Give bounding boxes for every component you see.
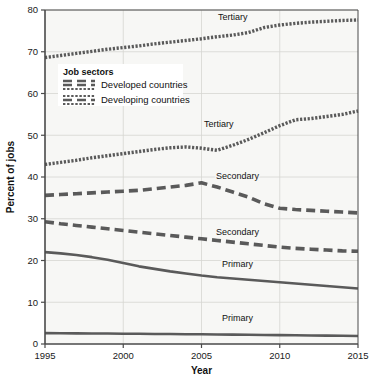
y-tick-label: 40	[27, 171, 38, 182]
x-tick-label: 1995	[34, 350, 55, 361]
x-tick-label: 2010	[269, 350, 290, 361]
x-tick-label: 2015	[347, 350, 368, 361]
x-tick-label: 2005	[191, 350, 212, 361]
line-chart: TertiaryTertiarySecondarySecondaryPrimar…	[0, 0, 369, 379]
y-tick-label: 70	[27, 46, 38, 57]
series-label-primary: Primary	[222, 313, 253, 323]
x-axis-title: Year	[191, 365, 212, 376]
y-tick-label: 60	[27, 88, 38, 99]
series-label-tertiary: Tertiary	[204, 119, 234, 129]
legend: Job sectorsDeveloped countriesDeveloping…	[58, 64, 190, 106]
y-tick-label: 20	[27, 255, 38, 266]
series-label-secondary: Secondary	[216, 171, 260, 181]
y-axis-title: Percent of jobs	[5, 140, 16, 213]
legend-label-developed-countries: Developed countries	[101, 79, 188, 90]
chart-container: TertiaryTertiarySecondarySecondaryPrimar…	[0, 0, 369, 379]
x-tick-label: 2000	[113, 350, 134, 361]
y-tick-label: 80	[27, 4, 38, 15]
legend-title: Job sectors	[63, 67, 114, 77]
series-label-tertiary: Tertiary	[218, 12, 248, 22]
series-label-secondary: Secondary	[216, 227, 260, 237]
y-tick-label: 0	[33, 338, 38, 349]
y-tick-label: 50	[27, 130, 38, 141]
y-tick-label: 30	[27, 213, 38, 224]
legend-label-developing-countries: Developing countries	[101, 94, 190, 105]
series-label-primary: Primary	[222, 259, 253, 269]
y-tick-label: 10	[27, 297, 38, 308]
